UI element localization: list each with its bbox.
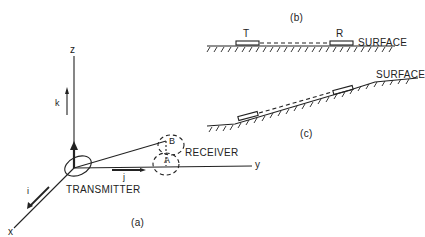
i-vector-label: i [27, 186, 29, 196]
point-b-label: B [169, 136, 175, 146]
panel-b-caption: (b) [290, 12, 303, 23]
k-vector-label: k [55, 98, 60, 108]
j-vector-label: j [123, 172, 125, 182]
surface-label-c: SURFACE [376, 69, 425, 80]
x-axis-label: x [8, 226, 13, 237]
x-axis [14, 168, 74, 228]
z-arrow-icon [70, 141, 78, 150]
panel-c-caption: (c) [300, 128, 313, 139]
z-axis-label: z [70, 44, 75, 55]
k-arrow-icon [65, 87, 69, 94]
y-axis [74, 166, 252, 168]
receiver-label: RECEIVER [185, 147, 239, 158]
surface-label-b: SURFACE [358, 37, 407, 48]
r-label: R [336, 28, 344, 39]
j-arrow-icon [140, 168, 146, 172]
transmitter-rect-b [236, 41, 259, 45]
transmitter-label: TRANSMITTER [66, 184, 140, 195]
diagram-drawing [0, 0, 425, 237]
panel-a-caption: (a) [131, 217, 144, 228]
point-a-label: A [164, 155, 170, 165]
t-label: T [243, 28, 249, 39]
y-axis-label: y [255, 159, 260, 170]
transmitter-rect-c [238, 111, 258, 120]
diagram: z y x k i j TRANSMITTER RECEIVER B A (a)… [0, 0, 425, 237]
receiver-rect-b [330, 41, 353, 45]
